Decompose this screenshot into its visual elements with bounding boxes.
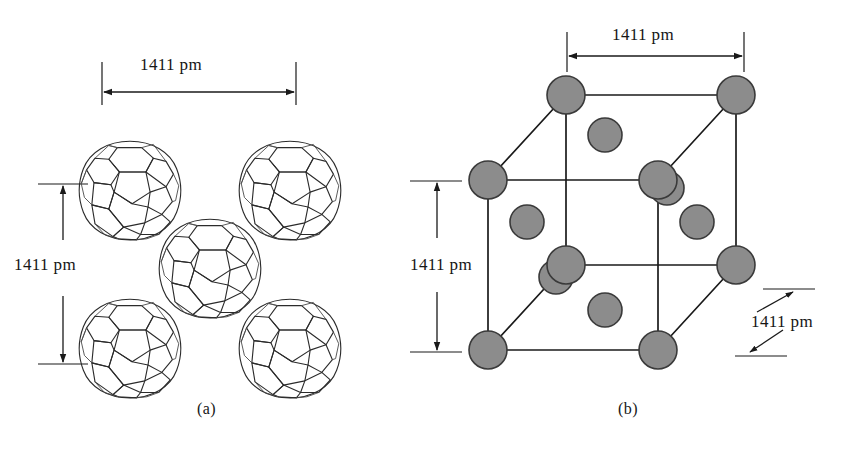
panel-a [38,62,341,398]
panel-caption-b: (b) [618,400,638,418]
sphere-corner-back-bottom-left [547,246,585,284]
buckyball-group [79,141,340,398]
sphere-corner-back-top-right [717,76,755,114]
sphere-corner-back-top-left [547,76,585,114]
sphere-corner-back-bottom-right [717,246,755,284]
sphere-corner-front-top-left [469,161,507,199]
buckyball-bottom-left [79,299,180,398]
dimension-arrow-lower-left [750,330,783,352]
dimension-arrow-upper-right [757,292,793,312]
buckyball-top-left [79,141,180,240]
buckyball-bottom-right [239,299,340,398]
panel-caption-a: (a) [197,400,216,418]
dimension-label-b-left: 1411 pm [410,255,472,275]
sphere-face-left [510,205,544,239]
sphere-corner-front-top-right [639,161,677,199]
sphere-corner-front-bottom-right [639,331,677,369]
figure-root: 1411 pm 1411 pm (a) 1411 pm 1411 pm 1411… [0,0,842,451]
dimension-label-b-depth: 1411 pm [751,312,813,332]
sphere-corner-front-bottom-left [469,331,507,369]
face-centre-spheres [510,118,714,327]
sphere-face-right [680,205,714,239]
buckyball-centre [159,219,260,318]
figure-canvas [0,0,842,451]
buckyball-top-right [239,141,340,240]
sphere-face-top [588,118,622,152]
sphere-face-bottom [588,293,622,327]
dimension-label-a-left: 1411 pm [14,255,76,275]
dimension-label-a-top: 1411 pm [140,55,202,75]
dimension-label-b-top: 1411 pm [612,25,674,45]
